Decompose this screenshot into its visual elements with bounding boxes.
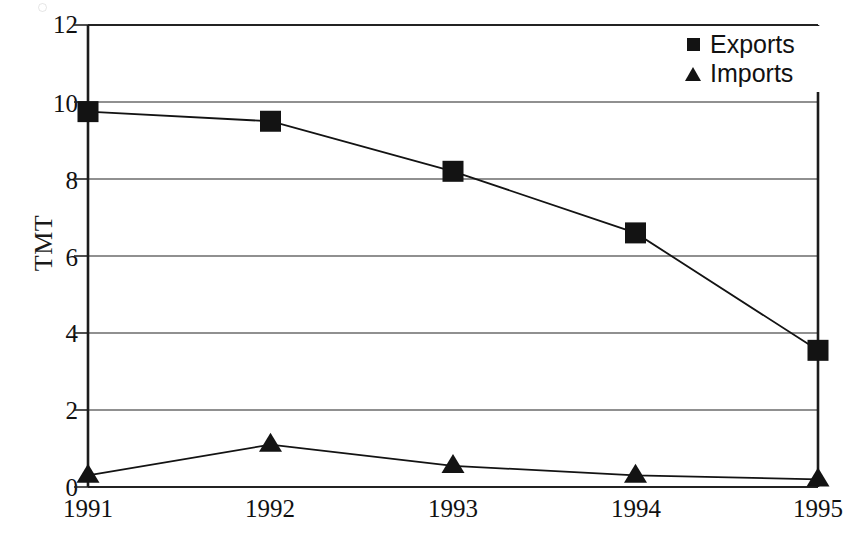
square-marker-icon	[682, 34, 704, 56]
triangle-marker-icon	[682, 63, 704, 85]
data-point-marker	[807, 468, 830, 487]
legend-item-exports: Exports	[682, 30, 820, 59]
legend-item-imports: Imports	[682, 59, 820, 88]
data-point-marker	[808, 340, 829, 361]
data-point-marker	[78, 101, 99, 122]
data-point-marker	[625, 222, 646, 243]
series-exports	[78, 101, 829, 361]
legend-label: Exports	[704, 32, 795, 57]
data-point-marker	[442, 454, 465, 473]
series-imports	[77, 433, 830, 487]
y-tick-marks	[74, 25, 88, 487]
data-series-layer	[77, 101, 830, 486]
legend: Exports Imports	[678, 26, 826, 92]
legend-label: Imports	[704, 61, 793, 86]
chart-figure: TMT 12 10 8 6 4 2 0 1991 1992 1993 1994 …	[0, 0, 849, 538]
data-point-marker	[443, 161, 464, 182]
data-point-marker	[77, 464, 100, 483]
series-line	[88, 112, 818, 351]
gridlines	[88, 25, 818, 487]
data-point-marker	[260, 111, 281, 132]
data-point-marker	[624, 464, 647, 483]
data-point-marker	[259, 433, 282, 452]
